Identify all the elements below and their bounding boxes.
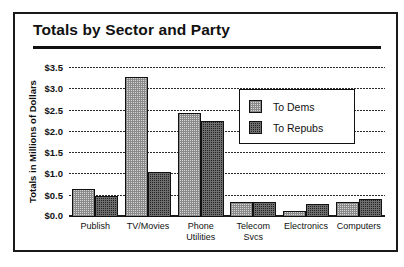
chart-legend: To DemsTo Repubs xyxy=(239,89,355,144)
legend-swatch-dems xyxy=(249,100,262,113)
bar-dems xyxy=(178,113,201,217)
bar-group xyxy=(69,68,122,217)
bar-group xyxy=(174,68,227,217)
legend-item-dems[interactable]: To Dems xyxy=(249,96,354,117)
y-tick-label: $2.5 xyxy=(45,104,64,115)
y-tick-label: $3.0 xyxy=(45,83,64,94)
chart-title: Totals by Sector and Party xyxy=(33,21,230,39)
y-tick-label: $3.5 xyxy=(45,62,64,73)
title-divider-rule xyxy=(33,46,381,49)
bar-repubs xyxy=(253,202,276,217)
x-tick-label: Computers xyxy=(332,221,385,232)
x-tick-label: Publish xyxy=(69,221,122,232)
x-tick-label-line2: Svcs xyxy=(227,232,280,243)
y-tick-label: $0.5 xyxy=(45,189,64,200)
legend-label: To Repubs xyxy=(273,122,323,134)
legend-item-repubs[interactable]: To Repubs xyxy=(249,117,354,138)
bar-dems xyxy=(230,202,253,217)
y-tick-label: $1.0 xyxy=(45,168,64,179)
legend-swatch-repubs xyxy=(249,121,262,134)
bar-dems xyxy=(336,202,359,217)
x-tick-label: TV/Movies xyxy=(122,221,175,232)
bar-repubs xyxy=(201,121,224,217)
bar-group xyxy=(122,68,175,217)
y-tick-label: $2.0 xyxy=(45,125,64,136)
legend-label: To Dems xyxy=(273,101,314,113)
bar-repubs xyxy=(95,196,118,217)
x-tick-label-line2: Utilities xyxy=(174,232,227,243)
chart-figure-frame: Totals by Sector and Party Totals in Mil… xyxy=(13,12,398,252)
bar-dems xyxy=(125,77,148,217)
y-tick-label: $1.5 xyxy=(45,147,64,158)
x-tick-label: Electronics xyxy=(280,221,333,232)
y-tick-label: $0.0 xyxy=(45,210,64,221)
x-tick-label: TelecomSvcs xyxy=(227,221,280,242)
x-tick-label: PhoneUtilities xyxy=(174,221,227,242)
y-axis-title: Totals in Millions of Dollars xyxy=(27,62,38,222)
bar-repubs xyxy=(148,172,171,217)
bar-dems xyxy=(72,189,95,217)
bar-repubs xyxy=(306,204,329,217)
bar-repubs xyxy=(359,199,382,217)
x-axis-labels: PublishTV/MoviesPhoneUtilitiesTelecomSvc… xyxy=(69,221,385,255)
bar-dems xyxy=(283,211,306,217)
